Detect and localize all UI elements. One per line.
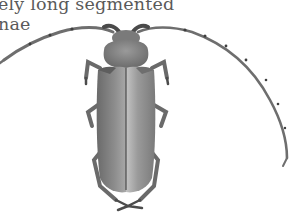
left-antenna (0, 28, 113, 67)
left-elytron (97, 67, 126, 193)
right-antenna (138, 28, 287, 167)
pronotum (104, 40, 149, 69)
beetle-icon (0, 0, 300, 218)
right-elytron (126, 67, 155, 193)
